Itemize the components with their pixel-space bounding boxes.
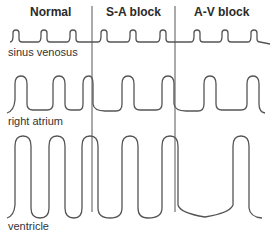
trace-ventricle	[7, 136, 262, 218]
trace-sinus-venosus	[10, 30, 270, 44]
trace-right-atrium	[7, 76, 265, 113]
trace-label-right-atrium: right atrium	[8, 115, 63, 127]
trace-label-ventricle: ventricle	[8, 220, 49, 232]
trace-label-sinus-venosus: sinus venosus	[8, 46, 78, 58]
